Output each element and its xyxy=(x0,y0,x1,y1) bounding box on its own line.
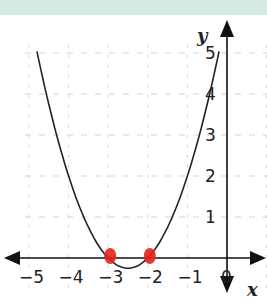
svg-text:1: 1 xyxy=(205,207,216,227)
parabola-curve xyxy=(37,51,219,268)
svg-text:2: 2 xyxy=(205,166,216,186)
svg-text:3: 3 xyxy=(205,125,216,145)
svg-text:0: 0 xyxy=(221,267,232,287)
svg-text:4: 4 xyxy=(205,84,216,104)
root-markers xyxy=(104,248,156,264)
svg-text:−4: −4 xyxy=(59,267,84,287)
svg-text:y: y xyxy=(196,25,209,46)
svg-text:5: 5 xyxy=(205,43,216,63)
svg-text:−2: −2 xyxy=(138,267,163,287)
svg-text:−5: −5 xyxy=(19,267,44,287)
svg-text:−3: −3 xyxy=(98,267,123,287)
chart-figure: −5−4−3−2−1012345xy xyxy=(0,0,267,302)
axes xyxy=(4,20,266,293)
svg-text:x: x xyxy=(246,279,258,300)
chart-svg: −5−4−3−2−1012345xy xyxy=(0,0,267,302)
svg-text:−1: −1 xyxy=(177,267,202,287)
